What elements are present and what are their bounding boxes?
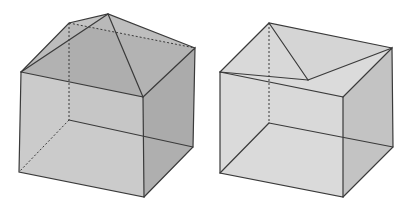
diagram-canvas: Two translucent grey cubes shown in obli… — [0, 0, 409, 208]
left-cube — [19, 14, 195, 197]
cubes-svg — [0, 0, 409, 208]
right-cube — [220, 23, 393, 197]
